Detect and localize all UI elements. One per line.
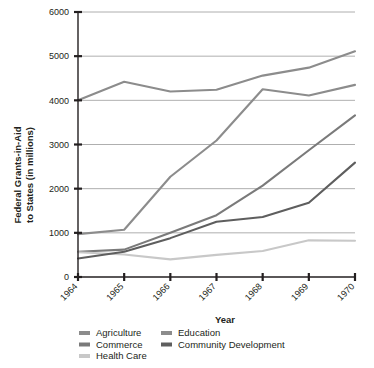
line-chart-figure: 0100020003000400050006000 19641965196619… [0,0,374,368]
legend-label-commerce: Commerce [96,339,142,350]
legend: AgricultureCommerceHealth CareEducationC… [79,327,285,361]
x-tick-label-1968: 1968 [243,281,264,302]
y-axis-title-line-2: to States (in millions) [24,127,35,223]
y-tick-label-1000: 1000 [49,228,69,238]
series-lines-group [78,51,355,259]
x-tick-label-1969: 1969 [289,281,310,302]
x-tick-label-1967: 1967 [197,281,218,302]
legend-label-education: Education [178,327,220,338]
series-line-community-development [78,163,355,259]
y-tick-label-0: 0 [64,272,69,282]
x-tick-labels-group: 1964196519661967196819691970 [58,281,356,302]
x-tick-label-1966: 1966 [151,281,172,302]
legend-label-community-development: Community Development [178,339,285,350]
legend-item-agriculture[interactable]: Agriculture [79,327,141,338]
y-tick-label-6000: 6000 [49,7,69,17]
series-line-education [78,51,355,100]
x-tick-label-1964: 1964 [58,281,79,302]
legend-item-education[interactable]: Education [161,327,220,338]
y-tick-label-5000: 5000 [49,51,69,61]
legend-item-commerce[interactable]: Commerce [79,339,142,350]
series-line-agriculture [78,85,355,234]
x-tick-label-1965: 1965 [104,281,125,302]
y-tick-label-4000: 4000 [49,96,69,106]
legend-label-health-care: Health Care [96,350,147,361]
series-line-commerce [78,115,355,251]
y-tick-labels-group: 0100020003000400050006000 [49,7,69,282]
y-axis-title-line-1: Federal Grants-in-Aid [12,126,23,223]
legend-item-health-care[interactable]: Health Care [79,350,147,361]
y-tick-label-2000: 2000 [49,184,69,194]
legend-label-agriculture: Agriculture [96,327,141,338]
y-tick-label-3000: 3000 [49,140,69,150]
x-axis-title: Year [215,314,235,325]
legend-item-community-development[interactable]: Community Development [161,339,285,350]
x-tick-label-1970: 1970 [335,281,356,302]
